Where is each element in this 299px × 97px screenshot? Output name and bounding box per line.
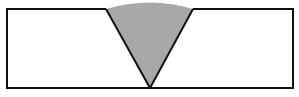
weld-diagram bbox=[0, 0, 299, 97]
weld-diagram-svg bbox=[0, 0, 299, 97]
weld-metal-fill bbox=[106, 3, 193, 89]
